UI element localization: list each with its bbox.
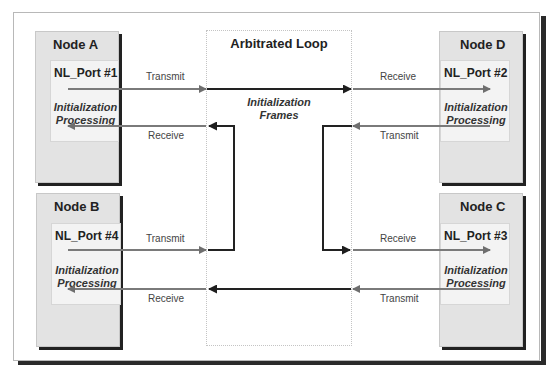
node-b-receive-label: Receive <box>148 293 184 304</box>
node-d-transmit-label: Transmit <box>380 130 419 141</box>
signal-arrows <box>0 0 555 376</box>
node-a-transmit-label: Transmit <box>146 71 185 82</box>
node-d-receive-label: Receive <box>380 71 416 82</box>
node-b-transmit-label: Transmit <box>146 233 185 244</box>
node-c-transmit-label: Transmit <box>380 293 419 304</box>
node-a-receive-label: Receive <box>148 130 184 141</box>
node-c-receive-label: Receive <box>380 233 416 244</box>
